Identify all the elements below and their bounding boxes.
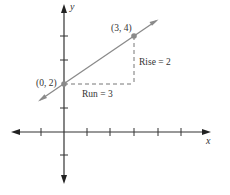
point-0-2-label: (0, 2)	[36, 78, 57, 89]
point-0-2	[61, 81, 67, 87]
y-axis-up-arrow-icon	[61, 4, 67, 13]
run-label: Run = 3	[82, 89, 113, 99]
rise-label: Rise = 2	[139, 57, 171, 67]
y-axis-down-arrow-icon	[61, 175, 67, 184]
coordinate-plane: x y (0, 2	[0, 0, 230, 195]
x-axis-left-arrow-icon	[11, 129, 20, 135]
y-axis-label: y	[69, 1, 75, 12]
point-3-4	[131, 33, 137, 39]
point-3-4-label: (3, 4)	[111, 23, 132, 34]
slope-diagram: x y (0, 2	[0, 0, 230, 195]
x-axis: x	[11, 128, 211, 146]
y-axis: y	[60, 1, 75, 184]
x-axis-label: x	[205, 135, 211, 146]
